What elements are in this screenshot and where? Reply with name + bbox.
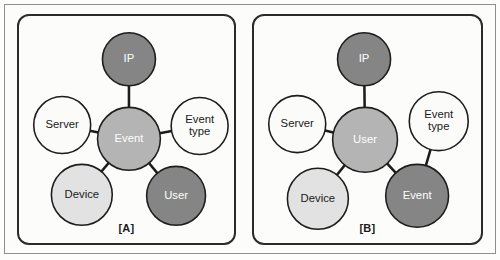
node-label-event-type: Event: [185, 113, 215, 125]
node-label-ip: IP: [359, 52, 370, 64]
node-label-user: User: [164, 189, 188, 201]
graph-node-event[interactable]: Event: [386, 164, 449, 227]
graph-node-ip[interactable]: IP: [338, 33, 391, 86]
diagram-figure: IPServerEventEventtypeDeviceUser [A] IPS…: [0, 0, 500, 260]
graph-node-user[interactable]: User: [333, 107, 398, 172]
graph-node-device[interactable]: Device: [287, 168, 348, 229]
graph-node-server[interactable]: Server: [34, 97, 91, 154]
panel-a-caption: [A]: [19, 222, 234, 234]
graph-node-device[interactable]: Device: [51, 164, 112, 225]
node-label-device: Device: [65, 188, 99, 200]
node-label-event-type: Event: [424, 108, 454, 120]
node-label-server: Server: [46, 118, 79, 130]
node-label-event: Event: [115, 132, 145, 144]
node-label-server: Server: [281, 117, 315, 129]
node-label-event-type: type: [428, 120, 449, 132]
node-label-user: User: [353, 133, 377, 145]
graph-node-user[interactable]: User: [147, 166, 206, 225]
node-label-ip: IP: [124, 52, 135, 64]
graph-node-event[interactable]: Event: [98, 107, 161, 170]
panel-b-caption: [B]: [254, 222, 481, 234]
node-label-device: Device: [301, 192, 336, 204]
panel-b: IPServerUserEventtypeDeviceEvent [B]: [252, 14, 483, 245]
panel-a: IPServerEventEventtypeDeviceUser [A]: [17, 14, 236, 245]
graph-node-server[interactable]: Server: [269, 96, 326, 153]
graph-node-event-type[interactable]: Eventtype: [171, 98, 228, 155]
node-label-event-type: type: [189, 125, 210, 137]
graph-node-ip[interactable]: IP: [102, 33, 155, 86]
panel-b-graph: IPServerUserEventtypeDeviceEvent: [254, 16, 481, 243]
node-label-event: Event: [403, 189, 433, 201]
graph-node-event-type[interactable]: Eventtype: [409, 92, 468, 151]
panel-a-graph: IPServerEventEventtypeDeviceUser: [19, 16, 234, 243]
